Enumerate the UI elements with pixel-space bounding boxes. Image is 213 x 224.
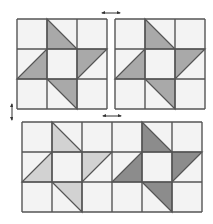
- grid-cell: [77, 79, 107, 109]
- vertical-double-arrow-icon-left: [10, 103, 13, 121]
- grid-cell: [82, 182, 112, 212]
- top-left-block: [17, 19, 107, 109]
- grid-cell: [145, 49, 175, 79]
- grid-cell: [112, 182, 142, 212]
- bottom-block: [22, 122, 202, 212]
- grid-cell: [22, 182, 52, 212]
- grid-cell: [82, 122, 112, 152]
- grid-cell: [172, 122, 202, 152]
- horizontal-double-arrow-icon-top: [101, 11, 121, 14]
- grid-cell: [115, 19, 145, 49]
- quilt-diagram: [0, 0, 213, 224]
- horizontal-double-arrow-icon-bottom: [102, 114, 122, 117]
- grid-cell: [47, 49, 77, 79]
- grid-cell: [142, 152, 172, 182]
- grid-cell: [17, 19, 47, 49]
- grid-cell: [175, 19, 205, 49]
- grid-cell: [112, 122, 142, 152]
- grid-cell: [175, 79, 205, 109]
- grid-cell: [17, 79, 47, 109]
- grid-cell: [77, 19, 107, 49]
- grid-cell: [22, 122, 52, 152]
- grid-cell: [172, 182, 202, 212]
- top-right-block: [115, 19, 205, 109]
- grid-cell: [52, 152, 82, 182]
- grid-cell: [115, 79, 145, 109]
